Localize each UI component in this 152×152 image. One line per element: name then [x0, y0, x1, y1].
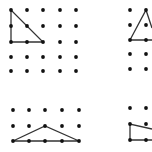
grid-dot	[41, 69, 45, 73]
grid-dot	[77, 108, 81, 112]
triangle-shape	[130, 10, 152, 40]
grid-dot	[25, 8, 29, 12]
grid-dot	[144, 52, 148, 56]
grid-dot	[77, 139, 81, 143]
grid-dot	[128, 8, 132, 12]
grid-dot	[144, 38, 148, 42]
grid-dot	[128, 106, 132, 110]
grid-dot	[43, 139, 47, 143]
grid-dot	[43, 108, 47, 112]
grid-dot	[74, 8, 78, 12]
triangle-shape	[13, 126, 79, 141]
grid-dot	[144, 8, 148, 12]
grid-dot	[41, 55, 45, 59]
grid-dot	[144, 106, 148, 110]
grid-dot	[60, 108, 64, 112]
grid-dot	[128, 138, 132, 142]
grid-dot	[60, 139, 64, 143]
grid-dot	[25, 69, 29, 73]
grid-dot	[11, 139, 15, 143]
grid-dot	[25, 40, 29, 44]
grid-dot	[11, 108, 15, 112]
grid-dot	[27, 139, 31, 143]
grid-dot	[58, 69, 62, 73]
panel-top-right	[128, 8, 152, 71]
grid-dot	[58, 40, 62, 44]
grid-dot	[74, 40, 78, 44]
grid-dot	[9, 40, 13, 44]
panel-bottom-left	[11, 108, 81, 143]
grid-dot	[144, 23, 148, 27]
panel-bottom-right	[128, 106, 152, 142]
grid-dot	[9, 24, 13, 28]
grid-dot	[43, 124, 47, 128]
grid-dot	[128, 122, 132, 126]
grid-dot	[9, 8, 13, 12]
grid-dot	[25, 55, 29, 59]
grid-dot	[77, 124, 81, 128]
grid-dot	[74, 55, 78, 59]
grid-dot	[58, 24, 62, 28]
grid-dot	[128, 23, 132, 27]
grid-dot	[74, 69, 78, 73]
grid-dot	[128, 67, 132, 71]
grid-dot	[41, 8, 45, 12]
grid-dot	[128, 52, 132, 56]
grid-dot	[27, 108, 31, 112]
triangle-shape	[130, 124, 152, 140]
grid-dot	[60, 124, 64, 128]
grid-dot	[41, 40, 45, 44]
grid-dot	[11, 124, 15, 128]
grid-dot	[9, 69, 13, 73]
grid-dot	[144, 138, 148, 142]
grid-dot	[58, 8, 62, 12]
grid-dot	[144, 67, 148, 71]
panel-top-left	[9, 8, 78, 73]
grid-dot	[74, 24, 78, 28]
grid-dot	[144, 122, 148, 126]
grid-dot	[25, 24, 29, 28]
grid-dot	[58, 55, 62, 59]
grid-dot	[27, 124, 31, 128]
grid-dot	[41, 24, 45, 28]
grid-dot	[9, 55, 13, 59]
grid-dot	[128, 38, 132, 42]
dot-grid-diagram	[0, 0, 152, 152]
